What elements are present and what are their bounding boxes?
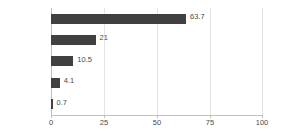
bar-row: Somewhat disagree 21: [51, 29, 263, 50]
bar[interactable]: [51, 14, 186, 24]
bar[interactable]: [51, 56, 73, 66]
bar[interactable]: [51, 78, 60, 88]
x-tick-label: 75: [206, 118, 214, 127]
bar-value-label: 0.7: [57, 98, 67, 108]
x-tick-label: 0: [49, 118, 53, 127]
bar[interactable]: [51, 99, 53, 109]
x-tick-label: 100: [256, 118, 269, 127]
plot-area: Strongly disagree 63.7 Somewhat disagree…: [51, 8, 263, 115]
bar-value-label: 4.1: [64, 76, 74, 86]
bar-chart: Strongly disagree 63.7 Somewhat disagree…: [0, 5, 290, 140]
bar-row: Somewhat agree 4.1: [51, 72, 263, 93]
bar-value-label: 10.5: [77, 55, 92, 65]
clipped-title-text: • • • • • • • • • • • •: [8, 0, 68, 1]
bar-value-label: 21: [100, 33, 108, 43]
x-tick-label: 50: [153, 118, 161, 127]
x-tick-label: 25: [100, 118, 108, 127]
bar-row: Strongly agree 0.7: [51, 94, 263, 115]
bar-value-label: 63.7: [190, 12, 205, 22]
bar-row: Neutral 10.5: [51, 51, 263, 72]
bar-row: Strongly disagree 63.7: [51, 8, 263, 29]
bar[interactable]: [51, 35, 96, 45]
